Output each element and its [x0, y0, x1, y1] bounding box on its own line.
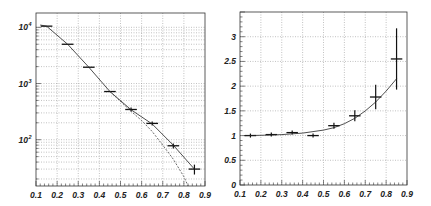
x-tick-label: 0.8 — [178, 190, 190, 200]
grid — [240, 12, 407, 185]
x-tick-label: 0.2 — [51, 190, 63, 200]
x-tick-label: 0.9 — [401, 189, 413, 199]
y-tick-label: 2 — [230, 81, 236, 91]
y-tick-label: 3 — [231, 32, 236, 42]
x-tick-label: 0.3 — [276, 189, 288, 199]
x-tick-label: 0.4 — [93, 190, 105, 200]
fit-curve — [40, 25, 194, 169]
y-tick-label: 2.5 — [223, 56, 236, 66]
charts-canvas: 0.10.20.30.40.50.60.70.80.9104103102 0.1… — [0, 0, 431, 206]
x-tick-label: 0.7 — [359, 189, 372, 199]
y-tick-label: 0 — [231, 180, 236, 190]
y-tick-label: 10 — [19, 79, 29, 89]
x-tick-label: 0.6 — [136, 190, 148, 200]
x-tick-label: 0.8 — [380, 189, 392, 199]
x-tick-label: 0.9 — [199, 190, 211, 200]
x-tick-label: 0.2 — [255, 189, 267, 199]
left-chart-log-spectrum: 0.10.20.30.40.50.60.70.80.9104103102 — [19, 13, 212, 200]
figure: 0.10.20.30.40.50.60.70.80.9104103102 0.1… — [0, 0, 431, 206]
y-tick-label: 1 — [231, 131, 236, 141]
x-tick-label: 0.3 — [72, 190, 84, 200]
fit-curve — [244, 79, 396, 136]
y-tick-label: 10 — [19, 135, 29, 145]
x-tick-label: 0.4 — [297, 189, 309, 199]
x-tick-label: 0.6 — [338, 189, 350, 199]
x-tick-label: 0.7 — [157, 190, 170, 200]
y-tick-exponent: 2 — [28, 134, 32, 140]
x-tick-label: 0.1 — [30, 190, 42, 200]
x-tick-label: 0.5 — [115, 190, 127, 200]
y-tick-label: 1.5 — [224, 106, 236, 116]
y-tick-exponent: 4 — [28, 21, 32, 27]
x-tick-label: 0.1 — [234, 189, 246, 199]
x-tick-label: 0.5 — [318, 189, 330, 199]
right-chart-ratio: 0.10.20.30.40.50.60.70.80.900.511.522.53 — [223, 12, 413, 199]
y-tick-label: 0.5 — [224, 155, 236, 165]
y-tick-exponent: 3 — [29, 78, 32, 84]
y-tick-label: 10 — [19, 22, 29, 32]
